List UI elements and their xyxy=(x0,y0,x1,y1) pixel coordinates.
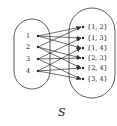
mapping-arrow xyxy=(38,58,81,59)
codomain-element-label: {2, 4} xyxy=(87,64,108,72)
domain-element-label: 2 xyxy=(26,43,30,51)
mapping-arrow xyxy=(38,68,81,71)
mapping-arrow xyxy=(38,59,81,79)
codomain-elements: {1, 2}{1, 3}{1, 4}{2, 3}{2, 4}{3, 4} xyxy=(82,23,108,83)
domain-elements: 1234 xyxy=(26,32,39,75)
codomain-element-label: {3, 4} xyxy=(87,75,108,83)
codomain-element-label: {1, 2} xyxy=(87,23,108,31)
domain-element-label: 3 xyxy=(26,55,30,63)
codomain-point xyxy=(82,78,84,80)
mapping-arrow xyxy=(38,48,81,71)
domain-element-label: 1 xyxy=(26,32,30,40)
codomain-point xyxy=(82,67,84,69)
domain-element-label: 4 xyxy=(26,67,30,75)
mapping-arrow xyxy=(38,47,81,68)
mapping-arrow xyxy=(38,27,81,36)
mapping-arrow xyxy=(38,27,81,47)
set-caption: S xyxy=(58,106,66,119)
codomain-point xyxy=(82,47,84,49)
bipartite-relation-diagram: 1234 {1, 2}{1, 3}{1, 4}{2, 3}{2, 4}{3, 4… xyxy=(0,0,117,126)
mapping-arrow xyxy=(38,71,81,79)
codomain-point xyxy=(82,26,84,28)
domain-set-oval xyxy=(14,19,50,89)
codomain-set-oval xyxy=(69,8,115,98)
mapping-arrows xyxy=(38,27,81,79)
codomain-point xyxy=(82,37,84,39)
codomain-element-label: {1, 3} xyxy=(87,34,108,42)
codomain-element-label: {1, 4} xyxy=(87,44,108,52)
codomain-point xyxy=(82,57,84,59)
codomain-element-label: {2, 3} xyxy=(87,54,108,62)
